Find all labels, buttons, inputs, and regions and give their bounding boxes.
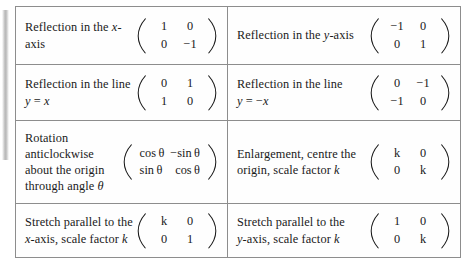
matrix-entry: 1 [151,18,177,35]
description-line: y = −x [237,94,269,108]
cell-description: Rotation anticlockwise about the origin … [25,130,104,195]
right-parenthesis-icon [440,74,451,111]
right-parenthesis-icon [440,212,451,249]
right-parenthesis-icon [207,212,218,249]
matrix-row: 0 k [384,231,436,248]
matrix-row: k 0 [384,145,436,162]
table-cell-reflection-line-y-equals-minus-x: Reflection in the line y = −x [228,65,461,121]
matrix-wrapper: k 0 0 1 [136,212,221,249]
matrix-entry: 0 [177,18,203,35]
matrix-entry: 0 [410,18,436,35]
description-line: Rotation [25,131,68,145]
matrix-wrapper: 1 0 0 −1 [136,17,221,54]
left-parenthesis-icon [369,212,380,249]
left-parenthesis-icon [136,17,147,54]
cell-description: Reflection in the line y = −x [237,76,343,108]
description-line: Reflection in the line [237,77,343,91]
description-line: Reflection in the y-axis [237,28,354,42]
matrix-entry: 0 [151,231,177,248]
table-row: Stretch parallel to the x-axis, scale fa… [16,204,461,258]
matrix-wrapper: 0 1 1 0 [136,74,221,111]
matrix-entry: −1 [410,75,436,92]
matrix-wrapper: 1 0 0 k [369,212,454,249]
table-cell-stretch-parallel-x-axis: Stretch parallel to the x-axis, scale fa… [16,204,228,258]
cell-description: Stretch parallel to the x-axis, scale fa… [25,214,133,246]
matrix-entry: 0 [151,75,177,92]
matrix-entry: −1 [177,36,203,53]
cell-description: Stretch parallel to the y-axis, scale fa… [237,214,345,246]
matrix-entry: k [151,213,177,230]
table-row: Reflection in the x-axis 1 [16,7,461,65]
right-parenthesis-icon [440,144,451,181]
description-line: Stretch parallel to the [237,215,345,229]
matrix-wrapper: −1 0 0 1 [369,17,454,54]
matrix-entry: sin θ [137,162,166,179]
matrix-row: cos θ −sin θ [137,145,203,162]
matrix-wrapper: 0 −1 −1 0 [369,74,454,111]
description-line: Reflection in the x-axis [25,20,122,50]
table-row: Rotation anticlockwise about the origin … [16,121,461,204]
matrix-row: 0 1 [151,75,203,92]
matrix: k 0 0 k [369,144,451,181]
matrix-entry: 0 [384,36,410,53]
table-row: Reflection in the line y = x 0 [16,65,461,121]
description-line: Enlargement, centre the [237,147,356,161]
table-cell-reflection-line-y-equals-x: Reflection in the line y = x 0 [16,65,228,121]
table-cell-reflection-y-axis: Reflection in the y-axis −1 [228,7,461,65]
description-line: Stretch parallel to the [25,215,133,229]
matrix: cos θ −sin θ sin θ cos θ [122,144,218,181]
left-parenthesis-icon [136,74,147,111]
description-line: y-axis, scale factor k [237,232,340,246]
right-parenthesis-icon [440,17,451,54]
matrix: 1 0 0 −1 [136,17,218,54]
matrix-row: sin θ cos θ [137,162,203,179]
matrix-entry: 1 [177,231,203,248]
cell-description: Reflection in the y-axis [237,27,354,43]
matrix-entry: k [410,162,436,179]
matrix-entry: −1 [384,18,410,35]
cell-description: Reflection in the line y = x [25,76,136,108]
matrix-row: 0 k [384,162,436,179]
matrix-row: −1 0 [384,93,436,110]
matrix-entry: 0 [410,93,436,110]
matrix: 0 1 1 0 [136,74,218,111]
matrix-entry: 0 [151,36,177,53]
table-cell-stretch-parallel-y-axis: Stretch parallel to the y-axis, scale fa… [228,204,461,258]
matrix-row: 1 0 [384,213,436,230]
matrix-entry: −1 [384,93,410,110]
matrix-row: 0 −1 [384,75,436,92]
table-cell-rotation-anticlockwise: Rotation anticlockwise about the origin … [16,121,228,204]
matrix-entry: 0 [177,213,203,230]
matrix-row: 1 0 [151,18,203,35]
matrix-entry: −sin θ [167,145,203,162]
description-line: about the origin [25,163,104,177]
description-line: origin, scale factor k [237,163,340,177]
left-parenthesis-icon [369,74,380,111]
transformation-matrix-table: Reflection in the x-axis 1 [15,6,461,258]
right-parenthesis-icon [207,17,218,54]
matrix-entry: 0 [177,93,203,110]
matrix-row: 1 0 [151,93,203,110]
cell-description: Reflection in the x-axis [25,19,136,51]
matrix-wrapper: cos θ −sin θ sin θ cos θ [122,144,221,181]
left-parenthesis-icon [122,144,133,181]
table-sheet: Reflection in the x-axis 1 [15,6,458,257]
left-parenthesis-icon [369,144,380,181]
matrix: −1 0 0 1 [369,17,451,54]
matrix-entry: k [410,231,436,248]
table-cell-enlargement: Enlargement, centre the origin, scale fa… [228,121,461,204]
matrix-row: 0 1 [384,36,436,53]
table-cell-reflection-x-axis: Reflection in the x-axis 1 [16,7,228,65]
matrix-entry: 1 [384,213,410,230]
cell-description: Enlargement, centre the origin, scale fa… [237,146,356,178]
matrix: k 0 0 1 [136,212,218,249]
matrix-wrapper: k 0 0 k [369,144,454,181]
matrix-entry: 0 [384,162,410,179]
matrix-entry: 1 [410,36,436,53]
right-parenthesis-icon [207,74,218,111]
matrix-entry: 0 [410,213,436,230]
matrix-row: 0 1 [151,231,203,248]
right-parenthesis-icon [207,144,218,181]
matrix-row: k 0 [151,213,203,230]
matrix-entry: 1 [177,75,203,92]
